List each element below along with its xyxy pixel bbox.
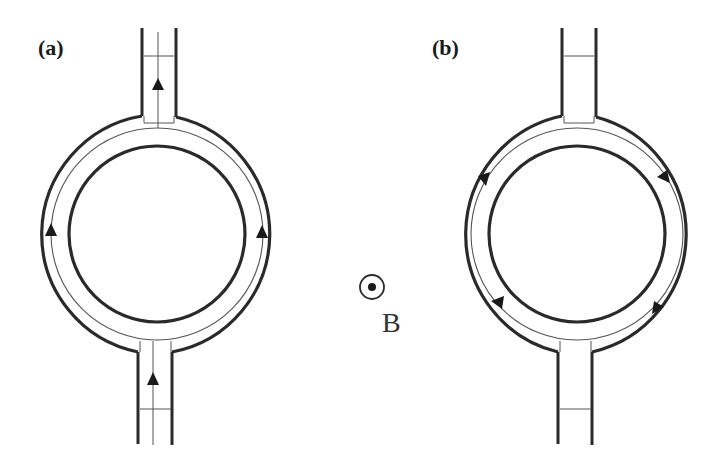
- panel-a: (a): [38, 28, 270, 445]
- panel-b-top-lead: [562, 28, 596, 123]
- field-label: B: [382, 307, 401, 338]
- panel-b-bottom-lead: [558, 341, 592, 445]
- panel-a-inner-ring: [69, 146, 245, 322]
- panel-b-current-path: [471, 128, 683, 340]
- panel-a-label: (a): [38, 35, 64, 60]
- panel-b-label: (b): [432, 35, 459, 60]
- panel-a-right-arrow-up-icon: [256, 225, 268, 238]
- panel-b-inner-ring: [489, 146, 665, 322]
- panel-b: (b): [432, 28, 686, 445]
- aharonov-bohm-ring-diagram: (a): [0, 0, 726, 464]
- arrow-up-icon: [152, 78, 164, 90]
- panel-a-left-arrow-up-icon: [45, 223, 57, 236]
- panel-a-bottom-lead: [138, 341, 172, 445]
- magnetic-field-indicator: B: [360, 275, 401, 338]
- panel-a-top-lead: [142, 28, 176, 128]
- panel-a-current-path: [51, 128, 263, 340]
- arrow-up-icon: [147, 372, 159, 385]
